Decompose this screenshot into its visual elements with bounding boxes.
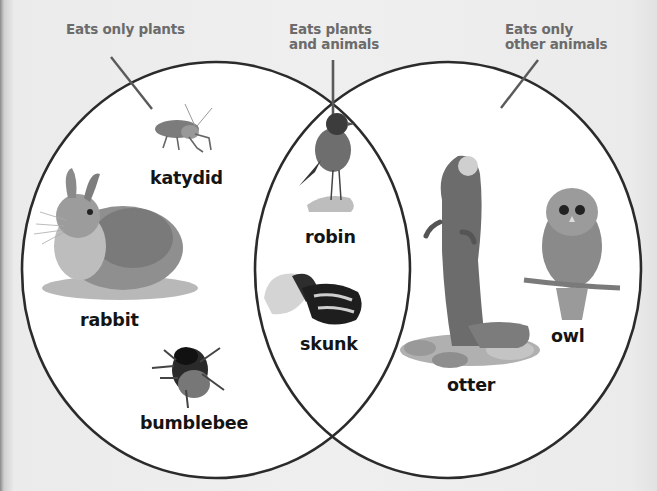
animal-label-owl: owl	[551, 326, 585, 346]
label-line: Eats only plants	[66, 21, 185, 37]
label-eats-plants-and-animals: Eats plants and animals	[289, 22, 379, 52]
animal-label-skunk: skunk	[300, 334, 358, 354]
label-eats-only-plants: Eats only plants	[66, 22, 185, 37]
label-line: Eats only	[505, 22, 607, 37]
label-line: Eats plants	[289, 22, 379, 37]
animal-label-katydid: katydid	[150, 168, 223, 188]
animal-label-rabbit: rabbit	[80, 310, 139, 330]
animal-label-bumblebee: bumblebee	[140, 413, 248, 433]
label-eats-only-other-animals: Eats only other animals	[505, 22, 607, 52]
label-line: and animals	[289, 37, 379, 52]
animal-label-otter: otter	[447, 375, 495, 395]
label-line: other animals	[505, 37, 607, 52]
animal-label-robin: robin	[305, 227, 356, 247]
